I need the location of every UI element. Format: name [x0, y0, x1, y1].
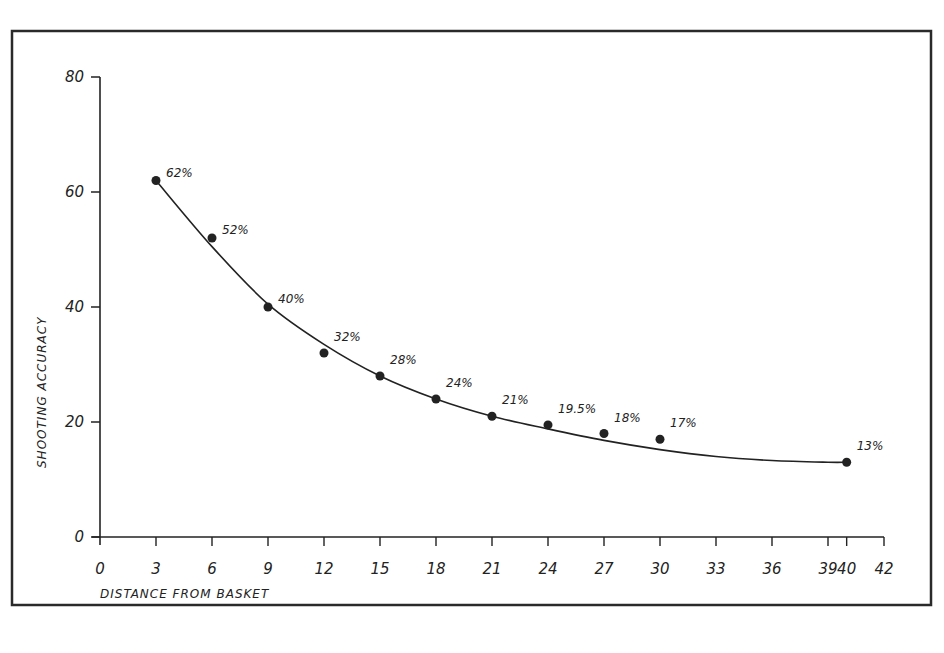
- x-tick-label: 33: [706, 560, 725, 578]
- x-tick-label: 0: [95, 560, 105, 578]
- data-label: 21%: [502, 393, 529, 407]
- data-label: 18%: [614, 411, 641, 425]
- data-point: [488, 412, 497, 421]
- x-tick-label: 6: [207, 560, 217, 578]
- data-label: 40%: [278, 292, 305, 306]
- y-tick-label: 40: [65, 298, 84, 316]
- data-point: [320, 349, 329, 358]
- y-axis-title: SHOOTING ACCURACY: [35, 316, 49, 468]
- x-tick-label: 36: [762, 560, 781, 578]
- data-point: [152, 176, 161, 185]
- data-label: 52%: [222, 223, 249, 237]
- data-point: [656, 435, 665, 444]
- x-tick-label: 42: [874, 560, 893, 578]
- x-tick-label: 30: [650, 560, 669, 578]
- data-label: 19.5%: [558, 402, 596, 416]
- outer-frame: [12, 31, 931, 605]
- trend-curve: [156, 181, 847, 463]
- y-tick-label: 80: [65, 68, 84, 86]
- x-tick-label: 3: [151, 560, 161, 578]
- y-tick-label: 0: [74, 528, 84, 546]
- data-point: [544, 420, 553, 429]
- x-tick-label: 18: [426, 560, 445, 578]
- y-tick-label: 20: [65, 413, 84, 431]
- x-tick-label: 40: [837, 560, 856, 578]
- x-tick-label: 27: [594, 560, 614, 578]
- x-tick-label: 24: [538, 560, 557, 578]
- data-label: 13%: [857, 439, 884, 453]
- y-tick-label: 60: [65, 183, 84, 201]
- x-tick-label: 39: [818, 560, 837, 578]
- data-label: 24%: [446, 376, 473, 390]
- data-label: 17%: [670, 416, 697, 430]
- data-label: 28%: [390, 353, 417, 367]
- trend-curve-layer: [156, 181, 847, 463]
- data-point: [208, 234, 217, 243]
- x-tick-label: 9: [263, 560, 273, 578]
- chart: 0204060800369121518212427303336394042 62…: [0, 0, 944, 653]
- x-axis-title: DISTANCE FROM BASKET: [100, 587, 270, 601]
- data-point: [432, 395, 441, 404]
- x-tick-label: 21: [482, 560, 501, 578]
- data-point: [600, 429, 609, 438]
- axes: 0204060800369121518212427303336394042: [65, 68, 894, 578]
- x-tick-label: 15: [370, 560, 389, 578]
- data-point: [264, 303, 273, 312]
- data-label: 32%: [334, 330, 361, 344]
- data-point: [842, 458, 851, 467]
- x-tick-label: 12: [314, 560, 333, 578]
- data-label: 62%: [166, 166, 193, 180]
- data-point: [376, 372, 385, 381]
